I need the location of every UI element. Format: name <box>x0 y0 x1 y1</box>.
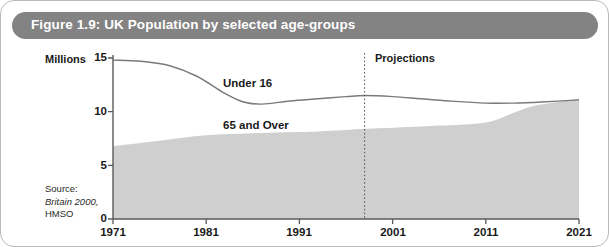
series-area-65-and-over <box>113 99 579 219</box>
series-label-under-16: Under 16 <box>223 77 272 89</box>
source-line-3: HMSO <box>45 208 98 221</box>
x-axis-tick-marks <box>113 219 579 224</box>
y-tick-label-5: 5 <box>81 159 107 171</box>
figure-frame: Figure 1.9: UK Population by selected ag… <box>0 0 609 247</box>
x-tick-label-1991: 1991 <box>269 226 329 238</box>
x-tick-label-2021: 2021 <box>549 226 609 238</box>
series-label-65-and-over: 65 and Over <box>223 119 289 131</box>
source-note: Source: Britain 2000, HMSO <box>45 183 98 221</box>
series-line-under-16 <box>113 60 579 104</box>
x-tick-label-2011: 2011 <box>456 226 516 238</box>
y-tick-label-15: 15 <box>81 51 107 63</box>
x-tick-label-2001: 2001 <box>363 226 423 238</box>
y-axis-tick-marks <box>108 58 113 219</box>
y-axis-label: Millions <box>45 53 86 65</box>
projections-label: Projections <box>375 52 435 64</box>
source-line-2: Britain 2000, <box>45 196 98 209</box>
source-line-1: Source: <box>45 183 98 196</box>
y-tick-label-10: 10 <box>81 105 107 117</box>
x-tick-label-1971: 1971 <box>83 226 143 238</box>
x-tick-label-1981: 1981 <box>176 226 236 238</box>
